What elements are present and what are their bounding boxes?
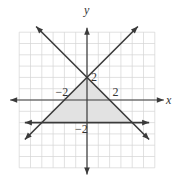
y-axis-label: y: [83, 3, 90, 17]
tick-label-y: −2: [75, 122, 88, 136]
tick-label-x: −2: [55, 85, 68, 99]
x-axis-arrow-left: [10, 97, 17, 103]
tick-label-y: 2: [91, 70, 97, 84]
line-horizontal-arrow-end: [142, 120, 149, 126]
tick-label-x: 2: [113, 85, 119, 99]
line-horizontal-arrow-start: [25, 120, 32, 126]
axes: [10, 28, 164, 175]
x-axis-label: x: [165, 93, 172, 107]
y-axis-arrow-down: [84, 168, 90, 175]
y-axis-arrow-up: [84, 28, 90, 35]
x-axis-arrow-right: [157, 97, 164, 103]
coordinate-plane: x y −222−2: [0, 0, 174, 184]
